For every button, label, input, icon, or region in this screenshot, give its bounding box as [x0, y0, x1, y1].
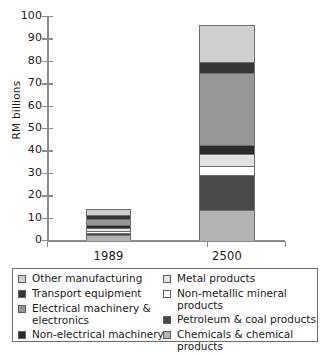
legend-item: Petroleum & coal products	[163, 313, 317, 327]
x-axis-tick-label: 2500	[187, 249, 267, 263]
bar-segment	[87, 215, 130, 218]
y-axis-tick-label: 90	[16, 32, 42, 43]
bar-segment	[200, 26, 254, 62]
legend-swatch-icon	[163, 316, 171, 324]
legend-swatch-icon	[163, 275, 171, 283]
y-axis-tick-mark	[42, 106, 53, 107]
y-axis-tick-label: 70	[16, 77, 42, 88]
legend-item: Other manufacturing	[18, 272, 166, 286]
y-axis-tick-label: 60	[16, 100, 42, 111]
y-axis-tick-mark	[42, 195, 53, 196]
y-axis-tick-label: 40	[16, 144, 42, 155]
y-axis-tick-mark	[42, 61, 53, 62]
x-axis-tick-label: 1989	[69, 249, 149, 263]
legend-item: Metal products	[163, 272, 317, 286]
legend-item: Transport equipment	[18, 287, 166, 301]
legend-swatch-icon	[163, 290, 171, 298]
bar-segment	[200, 145, 254, 154]
bar-segment	[200, 166, 254, 175]
bar-segment	[200, 154, 254, 166]
bar-segment	[87, 235, 130, 241]
y-axis-tick-mark	[42, 38, 53, 39]
y-axis-tick-mark	[42, 128, 53, 129]
legend-swatch-icon	[163, 331, 171, 339]
y-axis-tick-mark	[42, 16, 53, 17]
y-axis-tick-mark	[42, 173, 53, 174]
y-axis-tick-label: 20	[16, 189, 42, 200]
y-axis-tick-label: 0	[16, 234, 42, 245]
legend-item-label: Chemicals & chemical products	[177, 328, 317, 353]
legend-item-label: Electrical machinery & electronics	[32, 302, 151, 327]
bar-segment	[200, 62, 254, 73]
stacked-bar	[86, 209, 131, 240]
x-axis-tick-mark	[47, 241, 48, 247]
bar-segment	[87, 210, 130, 216]
legend-swatch-icon	[18, 331, 26, 339]
y-axis-tick-label: 50	[16, 122, 42, 133]
legend-item: Electrical machinery & electronics	[18, 302, 166, 327]
x-axis-tick-mark	[207, 241, 208, 247]
bar-segment	[87, 225, 130, 227]
y-axis-tick-mark	[42, 218, 53, 219]
y-axis-tick-mark	[42, 83, 53, 84]
legend-item-label: Non-electrical machinery	[32, 328, 164, 340]
y-axis-tick-labels: 0102030405060708090100	[16, 0, 42, 262]
y-axis-tick-label: 10	[16, 212, 42, 223]
bar-segment	[87, 219, 130, 226]
legend-swatch-icon	[18, 275, 26, 283]
legend-item-label: Transport equipment	[32, 287, 141, 299]
x-axis-tick-mark	[285, 241, 286, 247]
legend-column-left: Other manufacturingTransport equipmentEl…	[18, 272, 166, 343]
legend-item: Non-metallic mineral products	[163, 287, 317, 312]
legend-swatch-icon	[18, 290, 26, 298]
bar-segment	[200, 210, 254, 241]
chart-legend: Other manufacturingTransport equipmentEl…	[12, 268, 318, 342]
legend-item-label: Metal products	[177, 272, 255, 284]
bar-segment	[87, 228, 130, 231]
legend-item-label: Other manufacturing	[32, 272, 142, 284]
bar-segment	[87, 231, 130, 233]
chart-plot-area: RM billions 0102030405060708090100 19892…	[0, 0, 332, 262]
legend-swatch-icon	[18, 305, 26, 313]
legend-item: Non-electrical machinery	[18, 328, 166, 342]
stacked-bar	[199, 25, 255, 240]
bar-segment	[87, 233, 130, 235]
legend-item: Chemicals & chemical products	[163, 328, 317, 353]
y-axis-tick-mark	[42, 150, 53, 151]
legend-item-label: Petroleum & coal products	[177, 313, 316, 325]
bar-segment	[200, 73, 254, 145]
y-axis-tick-label: 80	[16, 55, 42, 66]
bar-segment	[200, 175, 254, 210]
legend-column-right: Metal productsNon-metallic mineral produ…	[163, 272, 317, 354]
legend-item-label: Non-metallic mineral products	[177, 287, 317, 312]
y-axis-tick-label: 30	[16, 167, 42, 178]
y-axis-tick-label: 100	[16, 10, 42, 21]
